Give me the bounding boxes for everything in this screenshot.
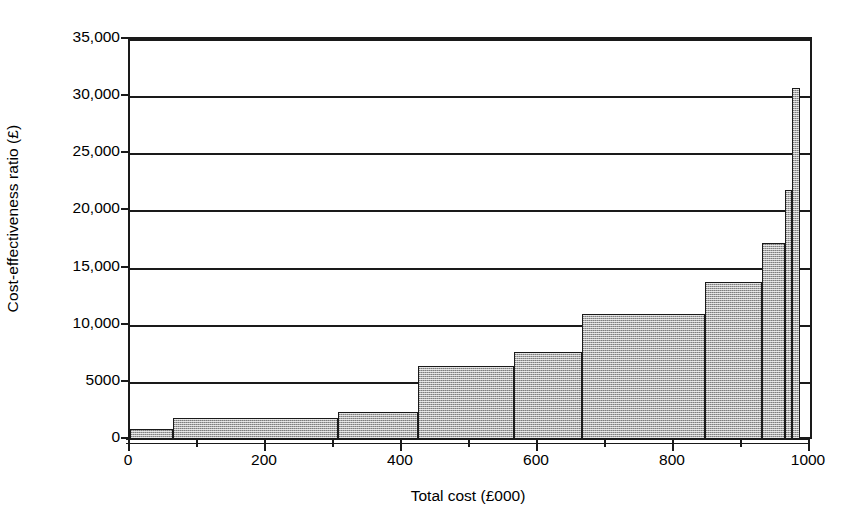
x-axis-tick-label: 400: [387, 452, 413, 468]
x-axis-tick-label: 800: [659, 452, 685, 468]
x-axis-tick-label: 1000: [791, 452, 825, 468]
x-axis-tick: [536, 437, 538, 451]
plot-area: [128, 37, 812, 439]
y-axis-tick-label: 20,000: [46, 201, 120, 217]
chart-container: Cost-effectiveness ratio (£) 0500010,000…: [0, 0, 860, 525]
x-axis-tick: [672, 437, 674, 451]
y-axis-tick: [121, 94, 130, 96]
y-axis-tick-label: 35,000: [46, 29, 120, 45]
x-axis-title: Total cost (£000): [128, 487, 808, 505]
bar: [705, 282, 762, 439]
y-axis-tick: [121, 266, 130, 268]
y-axis-tick: [121, 151, 130, 153]
bar: [582, 314, 705, 439]
bar: [418, 366, 514, 439]
bar: [762, 243, 784, 439]
bar: [785, 190, 792, 439]
bar: [792, 88, 799, 439]
y-axis-tick: [121, 323, 130, 325]
y-axis-tick-label: 25,000: [46, 144, 120, 160]
y-axis-tick: [121, 208, 130, 210]
y-axis-tick-label: 30,000: [46, 86, 120, 102]
bar: [173, 418, 338, 439]
x-axis-tick-label: 0: [124, 452, 133, 468]
x-axis-tick: [808, 437, 810, 451]
y-axis-tick: [121, 380, 130, 382]
y-axis-tick-labels: 0500010,00015,00020,00025,00030,00035,00…: [38, 0, 120, 525]
bar: [338, 412, 418, 439]
x-axis-tick-label: 600: [523, 452, 549, 468]
x-axis-tick: [128, 437, 130, 451]
x-axis-tick-label: 200: [251, 452, 277, 468]
x-axis-tick: [264, 437, 266, 451]
x-axis-tick: [400, 437, 402, 451]
y-axis-title: Cost-effectiveness ratio (£): [0, 0, 26, 437]
bars-layer: [130, 39, 810, 439]
bar: [130, 429, 173, 439]
bar: [514, 352, 582, 439]
y-axis-tick-label: 0: [46, 429, 120, 445]
y-axis-tick-label: 10,000: [46, 315, 120, 331]
y-axis-tick: [121, 37, 130, 39]
y-axis-tick-label: 15,000: [46, 258, 120, 274]
y-axis-tick-label: 5000: [46, 372, 120, 388]
